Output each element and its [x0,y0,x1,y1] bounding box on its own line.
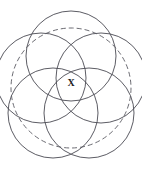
geometry-figure: X [0,0,142,172]
figure-canvas: X [0,0,142,172]
point-x-label: X [67,77,75,88]
